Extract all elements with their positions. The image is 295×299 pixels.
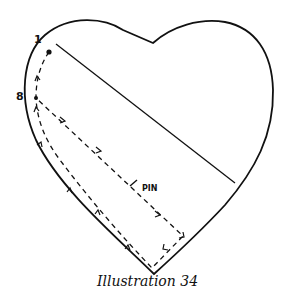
- label-pin: PIN: [142, 184, 158, 193]
- start-point: [46, 49, 51, 54]
- label-point-8: 8: [16, 90, 24, 103]
- fold-line: [56, 44, 235, 183]
- direction-arrows: [34, 76, 184, 250]
- point-8: [34, 96, 38, 100]
- heart-diagram: [0, 0, 295, 299]
- stitch-path: [36, 52, 183, 268]
- pin-mark: [130, 180, 137, 186]
- label-point-1: 1: [34, 33, 42, 46]
- figure-caption: Illustration 34: [0, 273, 295, 289]
- heart-outline: [25, 20, 273, 274]
